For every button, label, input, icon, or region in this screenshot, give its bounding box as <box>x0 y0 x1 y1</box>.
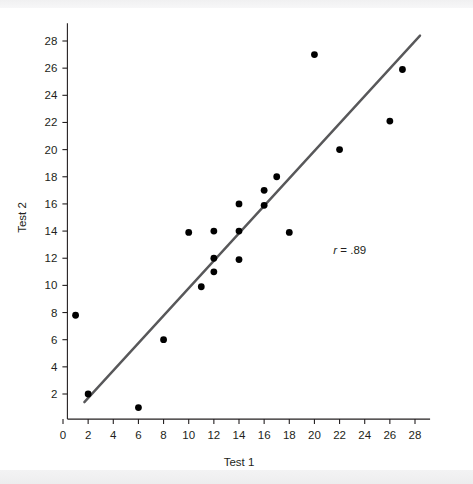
plot-canvas: 2468101214161820222426280246810121416182… <box>0 0 473 484</box>
y-tick-label: 8 <box>51 307 57 319</box>
data-point <box>261 202 268 209</box>
data-point <box>236 228 243 235</box>
data-point <box>236 256 243 263</box>
data-point <box>160 336 167 343</box>
data-point <box>198 283 205 290</box>
y-tick-label: 4 <box>51 361 58 373</box>
x-axis-title: Test 1 <box>224 456 255 468</box>
x-tick-label: 16 <box>258 429 271 441</box>
y-axis-title: Test 2 <box>16 202 28 233</box>
regression-line <box>84 36 420 403</box>
x-tick-label: 10 <box>182 429 195 441</box>
x-tick-label: 22 <box>333 429 346 441</box>
y-tick-label: 28 <box>45 35 58 47</box>
x-tick-label: 6 <box>135 429 141 441</box>
annotation-value: = .89 <box>337 244 366 256</box>
x-tick-label: 14 <box>233 429 246 441</box>
data-point <box>261 187 268 194</box>
data-point <box>286 229 293 236</box>
y-tick-label: 14 <box>45 225 58 237</box>
data-point <box>311 51 318 58</box>
x-tick-label: 12 <box>207 429 220 441</box>
y-tick-label: 22 <box>45 116 58 128</box>
y-tick-label: 6 <box>51 334 57 346</box>
data-point <box>210 255 217 262</box>
data-point <box>273 173 280 180</box>
annotation-correlation: r = .89 <box>333 244 366 256</box>
y-tick-label: 24 <box>45 89 58 101</box>
data-point <box>210 228 217 235</box>
data-point <box>85 391 92 398</box>
y-tick-label: 10 <box>45 279 58 291</box>
data-point <box>210 268 217 275</box>
y-tick-label: 2 <box>51 388 57 400</box>
y-tick-label: 12 <box>45 252 58 264</box>
data-point <box>399 66 406 73</box>
data-point <box>135 404 142 411</box>
x-tick-label: 18 <box>283 429 296 441</box>
regression-line-group <box>84 36 420 403</box>
x-tick-label: 0 <box>60 429 66 441</box>
annotations-group: r = .89 <box>333 244 366 256</box>
data-point <box>72 312 79 319</box>
data-point <box>386 118 393 125</box>
x-tick-label: 28 <box>409 429 422 441</box>
y-tick-label: 16 <box>45 198 58 210</box>
y-tick-label: 20 <box>45 144 58 156</box>
x-tick-label: 24 <box>358 429 371 441</box>
x-tick-label: 4 <box>110 429 117 441</box>
data-point <box>336 146 343 153</box>
y-tick-label: 26 <box>45 62 58 74</box>
x-tick-label: 2 <box>85 429 91 441</box>
y-tick-label: 18 <box>45 171 58 183</box>
scatter-plot-figure: 2468101214161820222426280246810121416182… <box>0 0 473 484</box>
x-tick-label: 26 <box>383 429 396 441</box>
data-point <box>236 201 243 208</box>
data-point <box>185 229 192 236</box>
x-tick-label: 20 <box>308 429 321 441</box>
x-tick-label: 8 <box>160 429 166 441</box>
